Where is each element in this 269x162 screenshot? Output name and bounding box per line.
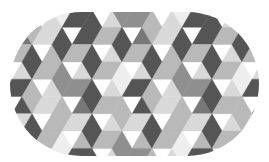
vertical-rhombus bbox=[22, 0, 42, 10]
left-rhombus bbox=[0, 114, 12, 131]
vertical-rhombus bbox=[142, 0, 162, 10]
right-rhombus bbox=[92, 0, 122, 10]
vertical-rhombus bbox=[0, 62, 12, 97]
left-rhombus bbox=[72, 0, 102, 10]
right-rhombus bbox=[212, 0, 242, 10]
right-rhombus bbox=[2, 148, 32, 162]
right-rhombus bbox=[0, 131, 2, 148]
right-rhombus bbox=[242, 10, 269, 27]
right-rhombus bbox=[152, 0, 182, 10]
vertical-rhombus bbox=[0, 27, 12, 62]
left-rhombus bbox=[0, 148, 12, 162]
vertical-rhombus bbox=[0, 131, 12, 162]
vertical-rhombus bbox=[0, 0, 12, 27]
left-rhombus bbox=[132, 0, 162, 10]
left-rhombus bbox=[252, 27, 269, 44]
vertical-rhombus bbox=[232, 0, 252, 27]
vertical-rhombus bbox=[262, 10, 269, 45]
vertical-rhombus bbox=[262, 114, 269, 149]
left-rhombus bbox=[12, 0, 42, 10]
left-rhombus bbox=[252, 131, 269, 148]
left-rhombus bbox=[252, 0, 269, 10]
vertical-rhombus bbox=[22, 148, 42, 162]
left-rhombus bbox=[222, 148, 252, 162]
right-rhombus bbox=[0, 62, 2, 79]
right-rhombus bbox=[2, 10, 32, 27]
vertical-rhombus bbox=[202, 0, 222, 10]
right-rhombus bbox=[0, 0, 2, 10]
vertical-rhombus bbox=[262, 148, 269, 162]
rhombus-tiles bbox=[0, 0, 269, 162]
right-rhombus bbox=[32, 0, 62, 10]
left-rhombus bbox=[252, 97, 269, 114]
left-rhombus bbox=[192, 0, 222, 10]
left-rhombus bbox=[222, 10, 252, 27]
vertical-rhombus bbox=[262, 0, 269, 10]
vertical-rhombus bbox=[0, 97, 12, 132]
pattern-canvas bbox=[0, 0, 269, 162]
left-rhombus bbox=[0, 45, 12, 62]
vertical-rhombus bbox=[262, 45, 269, 80]
left-rhombus bbox=[252, 62, 269, 79]
left-rhombus bbox=[0, 10, 12, 27]
vertical-rhombus bbox=[262, 79, 269, 114]
right-rhombus bbox=[0, 27, 2, 44]
right-rhombus bbox=[242, 148, 269, 162]
vertical-rhombus bbox=[82, 0, 102, 10]
right-rhombus bbox=[0, 97, 2, 114]
